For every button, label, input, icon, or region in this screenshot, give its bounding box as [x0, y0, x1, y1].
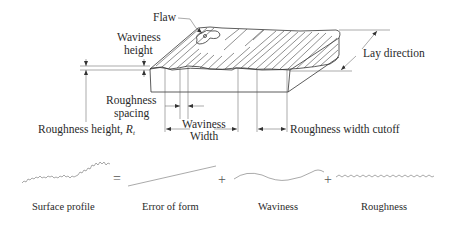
plus-operator-2: + [324, 172, 332, 187]
waviness-width-label-2: Width [190, 130, 219, 142]
block-side-face [288, 38, 339, 92]
flaw-leader [178, 18, 202, 33]
error-of-form-line [128, 166, 216, 186]
roughness-spacing-label-2: spacing [114, 107, 149, 120]
lay-direction-label: Lay direction [363, 47, 425, 60]
roughness-height-label: Roughness height, Rt [38, 123, 136, 137]
waviness-label: Waviness [258, 201, 298, 212]
roughness-width-cutoff-label: Roughness width cutoff [290, 123, 400, 136]
error-of-form-label: Error of form [142, 201, 199, 212]
waviness-curve [234, 170, 324, 180]
block-front-face [150, 69, 290, 92]
waviness-height-label-1: Waviness [117, 31, 161, 43]
waviness-height-label-2: height [124, 44, 154, 57]
lay-arrow-down [341, 56, 356, 70]
lay-hatching [156, 28, 338, 69]
waviness-width-label-1: Waviness [182, 118, 226, 130]
roughness-curve [336, 175, 434, 177]
roughness-spacing-label-1: Roughness [106, 94, 157, 107]
surface-profile-label: Surface profile [32, 201, 95, 212]
surface-profile-curve [22, 162, 110, 183]
flaw-shape [196, 30, 220, 44]
workpiece-block [150, 27, 340, 92]
surface-texture-diagram: Flaw Waviness height Roughness height, R… [0, 0, 456, 229]
equals-operator: = [113, 171, 121, 186]
roughness-label: Roughness [361, 201, 407, 212]
block-top-surface [150, 27, 340, 70]
plus-operator-1: + [218, 172, 226, 187]
flaw-label: Flaw [153, 11, 177, 23]
profile-decomposition: = + + Surface profile Error of form Wavi… [22, 162, 434, 212]
